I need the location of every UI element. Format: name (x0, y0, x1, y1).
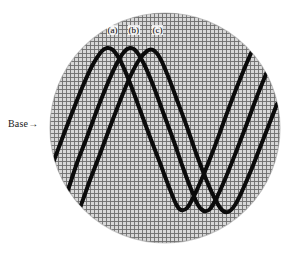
base-annotation: Base→ (8, 118, 38, 129)
waveform-figure (0, 0, 294, 260)
base-arrow-icon: → (28, 118, 38, 129)
wave-label-a: (a) (107, 25, 118, 35)
wave-label-b: (b) (128, 25, 140, 35)
base-label-text: Base (8, 118, 28, 129)
waveform-canvas (0, 0, 294, 260)
wave-label-c: (c) (152, 25, 163, 35)
